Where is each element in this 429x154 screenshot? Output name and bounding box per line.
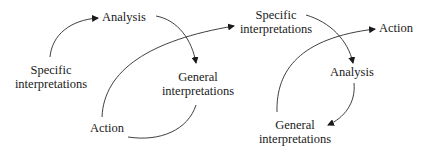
node-action-2: Action — [379, 21, 413, 35]
node-general-interpretations-2: General interpretations — [257, 118, 333, 146]
node-analysis-1: Analysis — [102, 10, 146, 24]
node-specific-interpretations-2: Specific interpretations — [238, 8, 314, 36]
node-analysis-2: Analysis — [330, 65, 374, 79]
edge-specific-to-analysis-1 — [50, 18, 98, 57]
edge-general-to-action-1 — [128, 105, 196, 138]
edge-analysis-to-general-1 — [156, 16, 196, 63]
node-general-interpretations-1: General interpretations — [160, 70, 236, 98]
node-action-1: Action — [90, 121, 124, 135]
node-specific-interpretations-1: Specific interpretations — [13, 63, 89, 91]
